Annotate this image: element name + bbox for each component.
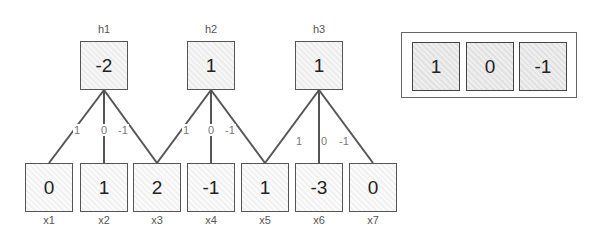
- input-label-x5: x5: [242, 214, 288, 226]
- kernel-cell-1: 1: [412, 42, 460, 91]
- input-node-x5: 1: [241, 163, 289, 212]
- edge-weight-h2-left: 1: [182, 124, 190, 136]
- input-node-x7: 0: [349, 163, 397, 212]
- input-label-x6: x6: [296, 214, 342, 226]
- edge-weight-h2-center: 0: [207, 124, 215, 136]
- kernel-cell-2: 0: [466, 42, 514, 91]
- edge-weight-h1-center: 0: [100, 124, 108, 136]
- edge-weight-h3-center: 0: [320, 135, 328, 147]
- input-node-x1: 0: [25, 163, 73, 212]
- input-label-x4: x4: [188, 214, 234, 226]
- hidden-label-h3: h3: [296, 23, 342, 35]
- input-node-x4: -1: [187, 163, 235, 212]
- hidden-label-h1: h1: [81, 23, 127, 35]
- hidden-node-h2: 1: [187, 41, 235, 90]
- input-label-x2: x2: [81, 214, 127, 226]
- input-label-x7: x7: [350, 214, 396, 226]
- edge-weight-h1-left: 1: [73, 124, 81, 136]
- input-label-x1: x1: [26, 214, 72, 226]
- hidden-node-h1: -2: [80, 41, 128, 90]
- edge-weight-h1-right: -1: [117, 124, 129, 136]
- edge-weight-h2-right: -1: [224, 124, 236, 136]
- input-node-x2: 1: [80, 163, 128, 212]
- input-node-x3: 2: [133, 163, 181, 212]
- hidden-label-h2: h2: [188, 23, 234, 35]
- kernel-cell-3: -1: [519, 42, 567, 91]
- edge-weight-h3-right: -1: [338, 135, 350, 147]
- edge-weight-h3-left: 1: [295, 135, 303, 147]
- input-node-x6: -3: [295, 163, 343, 212]
- hidden-node-h3: 1: [295, 41, 343, 90]
- input-label-x3: x3: [134, 214, 180, 226]
